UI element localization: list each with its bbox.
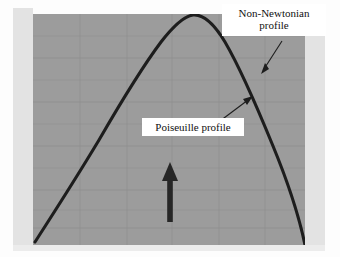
label-poiseuille-profile: Poiseuille profile [142, 118, 244, 136]
scan-mat-bottom [13, 245, 325, 251]
pointer-head [243, 96, 253, 105]
scan-mat-right [305, 8, 325, 250]
figure-canvas: Non-Newtonian profile Poiseuille profile [0, 0, 340, 257]
scan-mat-left [13, 8, 33, 250]
label-non-newtonian-line2: profile [224, 19, 324, 31]
non-newtonian-pointer-arrow [261, 41, 282, 74]
pointer-head [261, 63, 269, 74]
label-non-newtonian-line1: Non-Newtonian [239, 7, 310, 19]
pointer-shaft [264, 41, 282, 69]
flow-direction-arrow [162, 162, 178, 222]
flow-arrow-head [162, 162, 178, 181]
label-non-newtonian-profile: Non-Newtonian profile [222, 4, 326, 36]
label-poiseuille-line1: Poiseuille profile [155, 121, 230, 133]
